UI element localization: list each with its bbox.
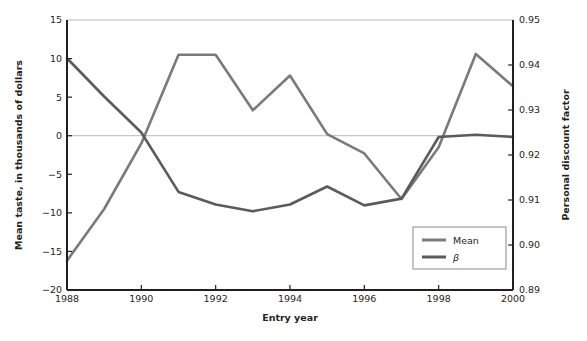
tick-label-right: 0.91 [519,194,540,205]
y-axis-left-title: Mean taste, in thousands of dollars [13,60,24,250]
tick-label-left: −5 [48,169,62,180]
tick-label-left: 10 [50,53,62,64]
tick-label-bottom: 2000 [501,293,525,304]
line-chart: 151050−5−10−15−20 0.950.940.930.920.910.… [0,0,587,341]
tick-label-right: 0.92 [519,149,540,160]
tick-label-left: 15 [50,14,62,25]
tick-label-bottom: 1988 [55,293,79,304]
tick-label-bottom: 1998 [427,293,451,304]
tick-label-left: −15 [42,246,62,257]
chart-legend: Mean β [413,227,506,269]
tick-label-left: −10 [42,207,62,218]
tick-label-bottom: 1996 [352,293,376,304]
tick-label-bottom: 1990 [129,293,153,304]
figure-container: 151050−5−10−15−20 0.950.940.930.920.910.… [0,0,587,341]
y-axis-right-title: Personal discount factor [560,89,571,220]
legend-label-mean: Mean [453,235,479,246]
legend-label-beta: β [452,252,459,263]
tick-label-left: 5 [56,92,62,103]
tick-label-bottom: 1994 [278,293,302,304]
tick-label-right: 0.90 [519,239,540,250]
tick-label-right: 0.95 [519,14,540,25]
tick-label-right: 0.93 [519,104,540,115]
tick-label-bottom: 1992 [204,293,228,304]
legend-box [413,227,506,269]
tick-label-left: 0 [56,130,62,141]
x-axis-title: Entry year [262,312,318,323]
tick-label-right: 0.94 [519,59,540,70]
